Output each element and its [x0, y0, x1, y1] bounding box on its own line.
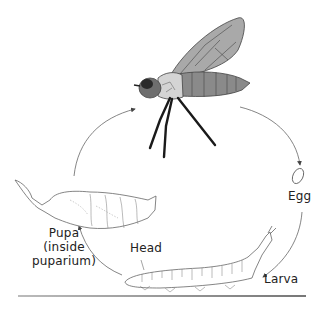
adult-fly-illustration: [134, 18, 250, 157]
egg-illustration: [290, 167, 306, 186]
fly-wing: [170, 18, 244, 78]
arrow-adult-to-egg: [240, 107, 300, 165]
arrow-pupa-to-adult: [74, 109, 135, 176]
fly-legs: [150, 98, 215, 157]
pupa-label-line-2: (inside: [30, 240, 98, 254]
stage-label-egg: Egg: [288, 189, 311, 203]
pupa-label-line-3: puparium): [30, 254, 98, 268]
annotation-head: Head: [130, 241, 162, 255]
stage-label-pupa: Pupa (inside puparium): [30, 226, 98, 268]
pupa-label-line-1: Pupa: [30, 226, 98, 240]
head-pointer-line: [141, 260, 144, 270]
fly-abdomen: [178, 72, 250, 97]
bottom-divider: [18, 295, 306, 297]
larva-illustration: [125, 226, 276, 292]
fly-eye: [141, 79, 153, 89]
stage-label-larva: Larva: [264, 272, 298, 286]
fly-thorax: [158, 73, 183, 100]
pupa-illustration: [15, 180, 156, 229]
